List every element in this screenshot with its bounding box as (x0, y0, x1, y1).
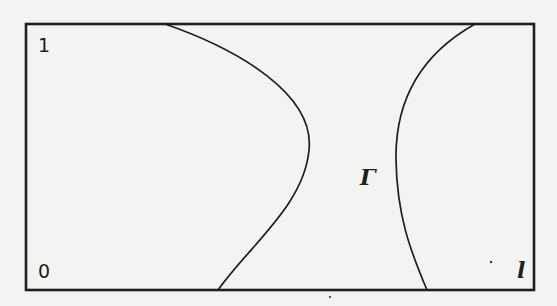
diagram-canvas (0, 0, 557, 306)
domain-rectangle (26, 24, 534, 290)
speck-dot (329, 296, 331, 298)
label-gamma-boundary: Γ (360, 166, 376, 188)
gamma-curve (396, 24, 475, 290)
label-length-l: l (517, 259, 525, 281)
left-curve (165, 24, 309, 290)
label-y-one: 1 (38, 36, 50, 55)
label-origin-zero: 0 (38, 262, 50, 281)
speck-dot (490, 261, 492, 263)
